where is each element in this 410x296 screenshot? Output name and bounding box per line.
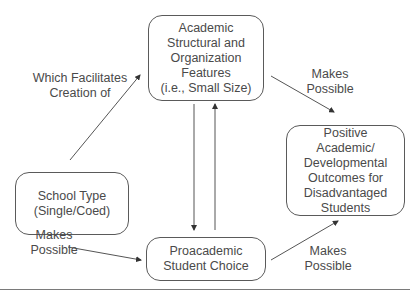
- node-school-type-text: School Type (Single/Coed): [34, 189, 110, 219]
- node-academic-features: Academic Structural and Organization Fea…: [148, 15, 264, 101]
- label-school-to-choice: Makes Possible: [24, 228, 84, 258]
- label-school-to-features: Which Facilitates Creation of: [25, 71, 135, 101]
- node-outcomes-text: Positive Academic/ Developmental Outcome…: [304, 126, 387, 216]
- node-outcomes: Positive Academic/ Developmental Outcome…: [286, 125, 405, 216]
- node-student-choice-text: Proacademic Student Choice: [163, 244, 248, 274]
- label-features-to-outcomes: Makes Possible: [300, 67, 360, 97]
- node-academic-features-text: Academic Structural and Organization Fea…: [161, 21, 252, 96]
- node-school-type: School Type (Single/Coed): [15, 172, 129, 235]
- horizontal-rule: [0, 289, 410, 290]
- label-choice-to-outcomes: Makes Possible: [298, 244, 358, 274]
- node-student-choice: Proacademic Student Choice: [146, 237, 266, 281]
